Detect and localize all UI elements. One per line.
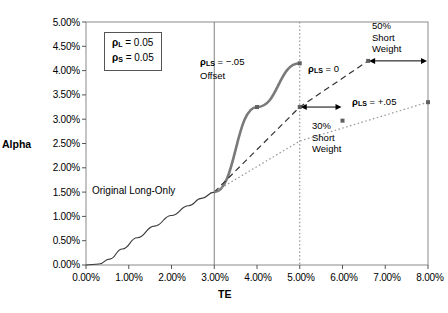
y-tick-label: 3.00% (34, 114, 80, 125)
chart-screenshot: 5.00% 4.50% 4.00% 3.50% 3.00% 2.50% 2.00… (0, 0, 448, 313)
short50-line1: 50% (372, 20, 401, 32)
y-axis-title: Alpha (2, 138, 31, 150)
y-tick-label: 2.00% (34, 162, 80, 173)
series-line-0 (86, 192, 214, 265)
series-line-1 (214, 63, 300, 192)
rho-plus-series-label: ρLS = +.05 (352, 96, 396, 110)
x-tick-label: 7.00% (363, 272, 411, 283)
x-tick-label: 1.00% (105, 272, 153, 283)
x-tick-label: 4.00% (234, 272, 282, 283)
original-long-only-label: Original Long-Only (92, 185, 175, 197)
y-tick-label: 4.00% (34, 65, 80, 76)
x-tick-label: 5.00% (277, 272, 325, 283)
zero-value: = 0 (323, 63, 339, 74)
arrow-head-left-1 (369, 58, 375, 64)
rho-zero-series-label: ρLS = 0 (308, 63, 339, 77)
rho-legend-box: ρL = 0.05 ρS = 0.05 (104, 32, 162, 71)
y-tick-label: 1.50% (34, 187, 80, 198)
x-tick-label: 2.00% (148, 272, 196, 283)
short-weight-50-label: 50% Short Weight (372, 20, 401, 55)
y-tick-label: 2.50% (34, 138, 80, 149)
data-point-marker (298, 61, 302, 65)
short30-line3: Weight (312, 143, 341, 155)
arrow-head-right-0 (336, 104, 342, 110)
x-axis-title: TE (218, 288, 231, 300)
offset-word: Offset (200, 70, 244, 82)
short30-line2: Short (312, 132, 341, 144)
y-tick-label: 4.50% (34, 41, 80, 52)
y-tick-label: 0.50% (34, 235, 80, 246)
short50-line3: Weight (372, 43, 401, 55)
offset-value: = −.05 (215, 56, 245, 67)
y-tick-label: 1.00% (34, 211, 80, 222)
rho-subscript-zero: LS (314, 67, 323, 74)
y-tick-label: 5.00% (34, 17, 80, 28)
arrow-head-right-1 (421, 58, 427, 64)
legend-rho-long: ρL = 0.05 (112, 36, 154, 51)
rho-subscript-plus: LS (358, 100, 367, 107)
data-point-marker (426, 100, 430, 104)
rho-subscript-offset: LS (206, 60, 215, 67)
x-tick-label: 3.00% (191, 272, 239, 283)
data-point-marker (255, 105, 259, 109)
offset-series-label: ρLS = −.05 Offset (200, 56, 244, 81)
legend-rho-short: ρS = 0.05 (112, 51, 154, 66)
x-tick-label: 6.00% (320, 272, 368, 283)
rho-short-value: = 0.05 (123, 52, 154, 63)
short-weight-30-label: 30% Short Weight (312, 120, 341, 155)
y-tick-label: 3.50% (34, 89, 80, 100)
short30-line1: 30% (312, 120, 341, 132)
short50-line2: Short (372, 32, 401, 44)
plus-value: = +.05 (367, 96, 397, 107)
x-tick-label: 8.00% (406, 272, 448, 283)
y-tick-label: 0.00% (34, 259, 80, 270)
rho-long-value: = 0.05 (122, 37, 153, 48)
x-tick-label: 0.00% (62, 272, 110, 283)
